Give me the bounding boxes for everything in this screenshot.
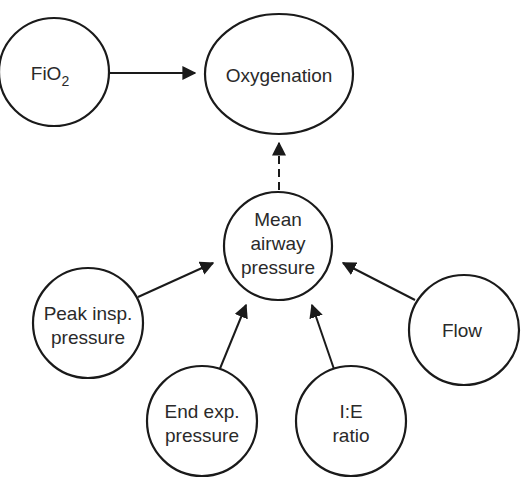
edge-flow-to-mean-airway xyxy=(343,263,415,300)
end-exp-line2: pressure xyxy=(165,425,239,446)
node-peak-insp-pressure: Peak insp. pressure xyxy=(33,268,143,378)
end-exp-line1: End exp. xyxy=(165,401,240,422)
peak-insp-line2: pressure xyxy=(51,327,125,348)
edge-end-exp-to-mean-airway xyxy=(219,305,246,371)
node-end-exp-pressure: End exp. pressure xyxy=(147,366,257,476)
ventilation-oxygenation-diagram: FiO2 Oxygenation Mean airway pressure Pe… xyxy=(0,0,526,483)
flow-label: Flow xyxy=(442,320,482,341)
ie-ratio-line1: I:E xyxy=(339,401,362,422)
node-ie-ratio: I:E ratio xyxy=(296,366,406,476)
oxygenation-label: Oxygenation xyxy=(226,65,333,86)
fio2-label: FiO xyxy=(31,63,62,84)
edge-peak-insp-to-mean-airway xyxy=(138,263,213,297)
mean-airway-line2: airway xyxy=(251,233,306,254)
edge-ie-ratio-to-mean-airway xyxy=(312,305,335,372)
ie-ratio-line2: ratio xyxy=(333,425,370,446)
node-mean-airway-pressure: Mean airway pressure xyxy=(224,192,332,300)
peak-insp-line1: Peak insp. xyxy=(44,303,133,324)
node-fio2: FiO2 xyxy=(0,18,109,126)
fio2-subscript: 2 xyxy=(61,73,69,89)
mean-airway-line1: Mean xyxy=(254,209,302,230)
node-oxygenation: Oxygenation xyxy=(205,14,353,134)
node-flow: Flow xyxy=(409,275,519,385)
mean-airway-line3: pressure xyxy=(241,257,315,278)
